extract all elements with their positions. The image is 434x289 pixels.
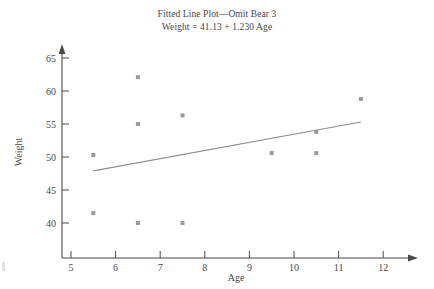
x-tick-label: 8 (202, 262, 207, 273)
x-tick-label: 10 (289, 262, 299, 273)
scatter-plot-canvas: 56789101112 404550556065 Age Weight (0, 0, 434, 289)
x-axis-ticks: 56789101112 (69, 251, 389, 273)
y-tick-label: 55 (46, 119, 56, 130)
y-axis-ticks: 404550556065 (46, 53, 69, 229)
x-axis-title: Age (228, 272, 245, 283)
y-tick-label: 45 (46, 185, 56, 196)
scatter-point (270, 151, 274, 155)
scatter-point (314, 130, 318, 134)
scatter-point (359, 97, 363, 101)
x-tick-label: 12 (378, 262, 388, 273)
scatter-point (91, 153, 95, 157)
scatter-point (91, 211, 95, 215)
scatter-points-group (91, 75, 363, 225)
scatter-point (181, 221, 185, 225)
fitted-line-plot-figure: Fitted Line Plot—Omit Bear 3 Weight = 41… (0, 0, 434, 289)
y-tick-label: 50 (46, 152, 56, 163)
x-tick-label: 7 (158, 262, 163, 273)
y-axis-title: Weight (13, 137, 24, 166)
y-tick-label: 40 (46, 218, 56, 229)
x-axis-arrow-icon (408, 255, 418, 262)
edge-scan-artifact (2, 262, 5, 271)
regression-fit-line (93, 122, 361, 171)
y-tick-label: 60 (46, 86, 56, 97)
x-tick-label: 5 (69, 262, 74, 273)
fit-line-segment (93, 122, 361, 171)
scatter-point (136, 122, 140, 126)
x-tick-label: 6 (113, 262, 118, 273)
scatter-point (136, 221, 140, 225)
axis-group (59, 44, 418, 261)
x-tick-label: 9 (247, 262, 252, 273)
scatter-point (314, 151, 318, 155)
scatter-point (181, 113, 185, 117)
y-axis-arrow-icon (59, 44, 66, 54)
x-tick-label: 11 (334, 262, 344, 273)
y-tick-label: 65 (46, 53, 56, 64)
scatter-point (136, 75, 140, 79)
